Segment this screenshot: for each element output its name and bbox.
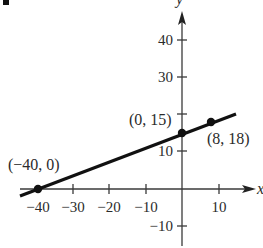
x-tick-label: −30: [61, 199, 84, 215]
data-point: [207, 118, 215, 126]
data-point: [178, 129, 186, 137]
y-tick-label: 40: [158, 32, 173, 48]
corner-mark: [3, 0, 9, 5]
x-tick-label: −40: [26, 199, 49, 215]
x-tick-label: −20: [97, 199, 120, 215]
y-tick-label: −10: [150, 218, 173, 234]
x-axis-label: x: [256, 180, 263, 197]
x-tick-label: 10: [212, 199, 227, 215]
x-tick-label: −10: [134, 199, 157, 215]
y-tick-label: 10: [158, 143, 173, 159]
point-label: (−40, 0): [8, 156, 60, 174]
y-axis-label: y: [174, 0, 184, 8]
data-line: [20, 114, 236, 196]
data-point: [34, 185, 42, 193]
point-label: (0, 15): [129, 111, 172, 129]
y-tick-label: 30: [158, 69, 173, 85]
line-chart: x −40 −30 −20 −10 10 y 40 30 10 −10 (−40…: [0, 0, 263, 248]
point-label: (8, 18): [207, 130, 250, 148]
x-axis: x −40 −30 −20 −10 10: [20, 180, 263, 215]
